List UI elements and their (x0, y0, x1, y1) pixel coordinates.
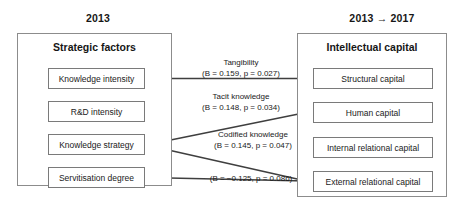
node-external-relational-capital[interactable]: External relational capital (313, 171, 433, 192)
node-label: Servitisation degree (59, 173, 134, 183)
edge-label-name: Tacit knowledge (181, 91, 301, 102)
node-internal-relational-capital[interactable]: Internal relational capital (313, 137, 433, 158)
node-servitisation-degree[interactable]: Servitisation degree (48, 167, 145, 188)
node-structural-capital[interactable]: Structural capital (313, 68, 433, 89)
edge-label-codified-knowledge: Codified knowledge (B = 0.145, p = 0.047… (192, 129, 314, 151)
node-knowledge-strategy[interactable]: Knowledge strategy (48, 134, 145, 155)
node-knowledge-intensity[interactable]: Knowledge intensity (48, 68, 145, 89)
node-label: Knowledge intensity (59, 74, 135, 84)
node-label: Structural capital (341, 74, 404, 84)
edge-label-tacit-knowledge: Tacit knowledge (B = 0.148, p = 0.034) (181, 91, 301, 113)
heading-period-right: 2013 → 2017 (322, 12, 442, 24)
edge-label-servitisation: (B = −0.125, p = 0.086) (190, 173, 312, 184)
node-label: External relational capital (326, 177, 421, 187)
edge-label-tangibility: Tangibility (B = 0.159, p = 0.027) (181, 57, 301, 79)
node-label: Human capital (346, 108, 400, 118)
edge-label-name: Codified knowledge (192, 129, 314, 140)
edge-label-stat: (B = −0.125, p = 0.086) (190, 173, 312, 184)
node-label: Knowledge strategy (59, 140, 134, 150)
node-human-capital[interactable]: Human capital (313, 102, 433, 123)
heading-period-left: 2013 (43, 12, 153, 24)
edge-label-stat: (B = 0.145, p = 0.047) (192, 140, 314, 151)
edge-label-stat: (B = 0.159, p = 0.027) (181, 68, 301, 79)
node-label: R&D intensity (71, 107, 123, 117)
edge-label-stat: (B = 0.148, p = 0.034) (181, 102, 301, 113)
structural-model-diagram: 2013 2013 → 2017 Strategic factors Intel… (0, 0, 466, 206)
edge-label-name: Tangibility (181, 57, 301, 68)
node-label: Internal relational capital (327, 143, 419, 153)
node-rd-intensity[interactable]: R&D intensity (48, 101, 145, 122)
group-left-title: Strategic factors (18, 41, 171, 53)
group-right-title: Intellectual capital (298, 41, 446, 53)
